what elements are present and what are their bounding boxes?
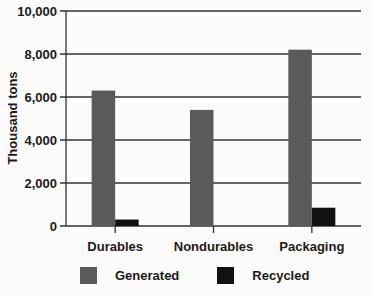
legend-swatch-generated: [80, 267, 97, 284]
bar-generated-nondurables: [190, 110, 214, 226]
bar-recycled-packaging: [312, 208, 336, 226]
legend-item-recycled: Recycled: [217, 267, 309, 284]
bar-generated-packaging: [288, 50, 312, 226]
legend: Generated Recycled: [80, 267, 347, 284]
y-tick-label: 0: [50, 219, 57, 234]
y-tick-label: 10,000: [17, 4, 57, 19]
bar-chart: 02,0004,0006,0008,00010,000Thousand tons…: [0, 0, 372, 297]
x-category-label: Packaging: [279, 239, 344, 254]
legend-item-generated: Generated: [80, 267, 179, 284]
legend-label-recycled: Recycled: [252, 268, 309, 283]
x-category-label: Durables: [87, 239, 143, 254]
bar-generated-durables: [92, 91, 116, 226]
y-tick-label: 2,000: [24, 176, 57, 191]
bar-recycled-durables: [115, 220, 138, 226]
y-tick-label: 6,000: [24, 90, 57, 105]
y-axis-label: Thousand tons: [5, 71, 20, 164]
legend-swatch-recycled: [217, 267, 234, 284]
legend-label-generated: Generated: [115, 268, 179, 283]
y-tick-label: 8,000: [24, 47, 57, 62]
x-category-label: Nondurables: [174, 239, 253, 254]
y-tick-label: 4,000: [24, 133, 57, 148]
